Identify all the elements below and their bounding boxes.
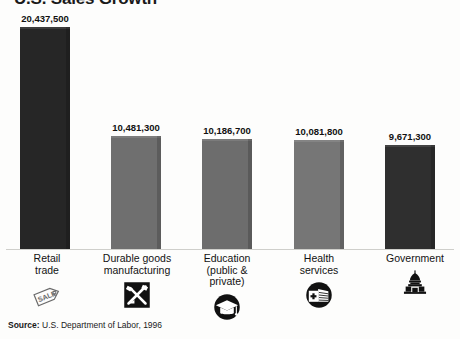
bar[interactable] <box>20 27 70 250</box>
bar-value-label: 20,437,500 <box>21 13 69 24</box>
bar-top-edge <box>294 140 344 142</box>
category-health-services: Health services <box>283 253 355 312</box>
bar-value-label: 9,671,300 <box>389 131 431 142</box>
medical-bag-icon <box>302 278 336 312</box>
bar[interactable] <box>111 136 161 250</box>
category-label: Retail trade <box>10 253 84 276</box>
bar-group: 10,186,700 <box>202 139 252 250</box>
bar-top-edge <box>20 27 70 29</box>
bar-top-edge <box>111 136 161 138</box>
source-note: Source: U.S. Department of Labor, 1996 <box>8 320 162 330</box>
category-label: Education (public & private) <box>188 253 266 288</box>
bar[interactable] <box>294 140 344 250</box>
category-durable-goods-manufacturing: Durable goods manufacturing <box>96 253 178 312</box>
bar-face <box>111 136 161 250</box>
bar[interactable] <box>202 139 252 250</box>
bar-face <box>294 140 344 250</box>
category-education: Education (public & private) <box>188 253 266 324</box>
bar-group: 9,671,300 <box>385 145 435 250</box>
graduation-cap-icon <box>210 290 244 324</box>
axis-baseline <box>6 249 454 250</box>
bar-right-edge <box>431 145 435 250</box>
bar-face <box>20 27 70 250</box>
bar-group: 10,481,300 <box>111 136 161 250</box>
bar-right-edge <box>340 140 344 250</box>
bar-right-edge <box>66 27 70 250</box>
bar-value-label: 10,186,700 <box>203 125 251 136</box>
bar-right-edge <box>248 139 252 250</box>
bar-face <box>202 139 252 250</box>
bar[interactable] <box>385 145 435 250</box>
category-retail-trade: Retail trade SALE <box>10 253 84 312</box>
category-label: Health services <box>283 253 355 276</box>
source-label: Source: <box>8 320 40 330</box>
bar-top-edge <box>202 139 252 141</box>
manufacturing-tools-icon <box>120 278 154 312</box>
bar-value-label: 10,481,300 <box>112 122 160 133</box>
category-government: Government <box>378 253 452 301</box>
category-label: Government <box>378 253 452 265</box>
chart-page: U.S. Sales Growth 20,437,500 10,481,300 … <box>0 0 460 339</box>
plot-area: 20,437,500 10,481,300 10,186,700 <box>0 0 460 250</box>
bar-top-edge <box>385 145 435 147</box>
category-label: Durable goods manufacturing <box>96 253 178 276</box>
bar-value-label: 10,081,800 <box>295 126 343 137</box>
capitol-dome-icon <box>398 267 432 301</box>
bar-face <box>385 145 435 250</box>
bar-group: 20,437,500 <box>20 27 70 250</box>
bar-right-edge <box>157 136 161 250</box>
bar-group: 10,081,800 <box>294 140 344 250</box>
sale-tag-icon: SALE <box>30 278 64 312</box>
source-text: U.S. Department of Labor, 1996 <box>40 320 162 330</box>
